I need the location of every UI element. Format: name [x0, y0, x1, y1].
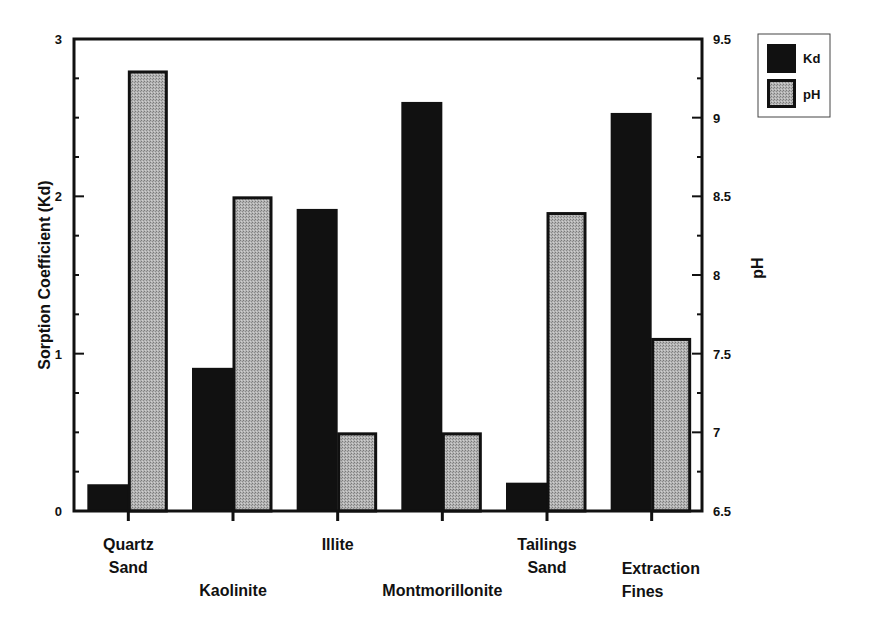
y-axis-title-left: Sorption Coefficient (Kd): [36, 180, 53, 369]
bar-kd: [401, 102, 442, 511]
x-category-label: Sand: [527, 559, 566, 576]
x-category-label: Tailings: [517, 536, 576, 553]
y-right-tick-label: 8.5: [713, 189, 731, 204]
left-y-axis: 0123: [55, 32, 84, 519]
y-right-tick-label: 9: [713, 111, 720, 126]
bar-ph: [443, 434, 480, 511]
legend-label-ph: pH: [803, 87, 820, 102]
y-tick-label: 3: [55, 32, 62, 47]
bar-kd: [611, 113, 652, 511]
x-category-label: Quartz: [103, 536, 154, 553]
x-category-label: Illite: [322, 536, 354, 553]
y-tick-label: 1: [55, 347, 62, 362]
bar-ph: [653, 339, 690, 511]
y-right-tick-label: 8: [713, 268, 720, 283]
y-tick-label: 2: [55, 189, 62, 204]
x-category-label: Extraction: [622, 560, 700, 577]
bar-kd: [506, 483, 547, 511]
right-y-axis: 6.577.588.599.5: [692, 32, 731, 519]
x-category-label: Sand: [109, 559, 148, 576]
bar-ph: [129, 72, 166, 511]
bar-ph: [234, 198, 271, 511]
y-right-tick-label: 6.5: [713, 504, 731, 519]
bar-kd: [192, 368, 233, 511]
bar-chart: 0123 6.577.588.599.5 QuartzSandKaolinite…: [0, 0, 869, 626]
bar-ph: [339, 434, 376, 511]
y-right-tick-label: 9.5: [713, 32, 731, 47]
bar-kd: [297, 209, 338, 511]
x-category-label: Montmorillonite: [382, 582, 502, 599]
bar-kd: [87, 484, 128, 511]
y-tick-label: 0: [55, 504, 62, 519]
legend: Kd pH: [758, 34, 830, 117]
bars-group: [87, 72, 689, 511]
y-axis-title-right: pH: [749, 257, 766, 278]
plot-frame: [74, 39, 702, 511]
x-axis: QuartzSandKaoliniteIlliteMontmorillonite…: [103, 511, 700, 600]
x-category-label: Fines: [622, 583, 664, 600]
x-category-label: Kaolinite: [199, 582, 267, 599]
y-right-tick-label: 7: [713, 425, 720, 440]
legend-label-kd: Kd: [803, 51, 820, 66]
legend-swatch-kd: [767, 44, 796, 73]
y-right-tick-label: 7.5: [713, 347, 731, 362]
legend-swatch-ph: [769, 81, 795, 107]
bar-ph: [548, 214, 585, 511]
